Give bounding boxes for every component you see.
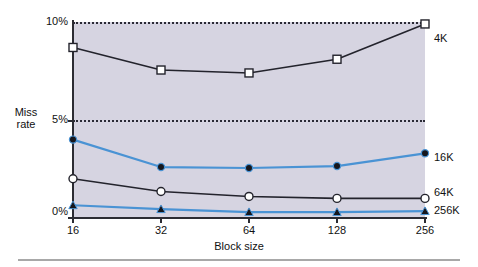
gridline-5-percent xyxy=(73,120,425,122)
y-tick-label-10: 10% xyxy=(28,16,68,27)
series-label-4k: 4K xyxy=(434,33,447,44)
x-tick-label-64: 64 xyxy=(229,224,269,236)
x-tick-mark-32 xyxy=(160,219,162,223)
y-tick-mark-5 xyxy=(68,120,73,122)
series-label-16k: 16K xyxy=(434,152,454,163)
y-axis-title: Miss rate xyxy=(4,106,48,130)
x-tick-label-32: 32 xyxy=(141,224,181,236)
x-tick-label-256: 256 xyxy=(405,224,445,236)
x-tick-mark-64 xyxy=(248,219,250,223)
x-tick-mark-16 xyxy=(72,219,74,223)
x-tick-label-128: 128 xyxy=(317,224,357,236)
miss-rate-vs-block-size-chart: 10% 5% 0% Miss rate 16 32 64 128 256 Blo… xyxy=(0,0,478,267)
footer-divider xyxy=(18,259,460,261)
x-tick-mark-256 xyxy=(424,219,426,223)
y-axis-title-line-1: Miss xyxy=(4,106,48,118)
x-tick-mark-128 xyxy=(336,219,338,223)
gridline-10-percent xyxy=(73,22,425,24)
x-tick-label-16: 16 xyxy=(53,224,93,236)
y-tick-label-0: 0% xyxy=(28,206,68,217)
y-axis-title-line-2: rate xyxy=(4,118,48,130)
series-label-256k: 256K xyxy=(434,205,460,216)
series-label-64k: 64K xyxy=(434,187,454,198)
x-axis-title: Block size xyxy=(0,240,478,252)
